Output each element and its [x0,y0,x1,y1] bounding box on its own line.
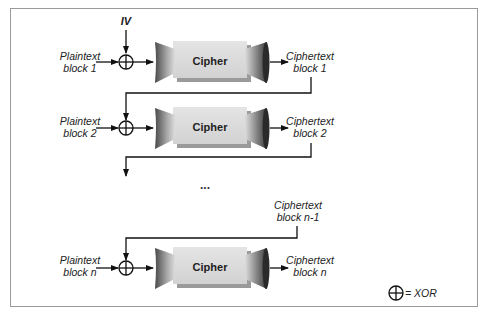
ciphertext-1-line2: block 1 [293,62,326,74]
plaintext-1-line1: Plaintext [60,50,101,62]
cipher-label: Cipher [193,261,229,273]
iv-label: IV [121,15,133,27]
ciphertext-1-line1: Ciphertext [286,50,335,62]
xor-icon [119,261,133,275]
row-1: Plaintext block 1 Cipher Ciphertext bloc… [60,41,335,83]
row-n: Plaintext block n Cipher Ciphertext bloc… [60,247,335,289]
plaintext-n-line1: Plaintext [60,254,101,266]
ciphertext-n-line2: block n [293,266,326,278]
ciphertext-2-line1: Ciphertext [286,115,335,127]
xor-icon [119,55,133,69]
cbc-diagram: IV Plaintext block 1 Cipher Ciphertext b… [0,0,487,323]
cipher-label: Cipher [193,55,229,67]
xor-icon [389,286,403,300]
ciphertext-n-line1: Ciphertext [286,254,335,266]
row-2: Plaintext block 2 Cipher Ciphertext bloc… [60,107,335,149]
plaintext-1-line2: block 1 [63,62,96,74]
ciphertext-2-line2: block 2 [293,127,326,139]
xor-icon [119,121,133,135]
plaintext-2-line1: Plaintext [60,115,101,127]
plaintext-n-line2: block n [63,266,96,278]
xor-legend: = XOR [389,286,437,300]
ciphertext-n-1-line1: Ciphertext [274,199,323,211]
ellipsis: ... [200,178,210,192]
cipher-label: Cipher [193,121,229,133]
plaintext-2-line2: block 2 [63,127,96,139]
ciphertext-n-1-line2: block n-1 [277,211,320,223]
xor-legend-text: = XOR [405,287,437,299]
